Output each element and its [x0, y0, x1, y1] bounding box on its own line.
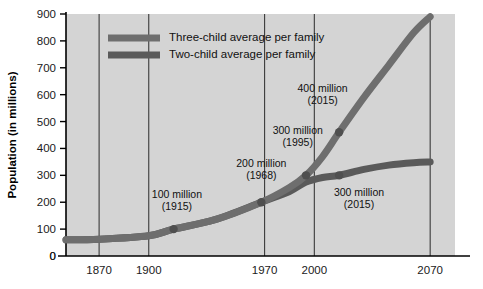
y-tick-label-600: 600 [37, 89, 56, 101]
y-tick-label-400: 400 [37, 142, 56, 154]
y-tick-label-200: 200 [37, 196, 56, 208]
legend-swatch-three-child [108, 35, 160, 42]
legend-label-three-child: Three-child average per family [169, 31, 325, 43]
annotation-value-3: 400 million [297, 82, 347, 94]
origin-label: 0 [50, 250, 56, 262]
chart-canvas: 0100200300400500600700800900187019001970… [0, 0, 483, 289]
annotation-year-0: (1915) [162, 200, 192, 212]
y-tick-label-800: 800 [37, 35, 56, 47]
x-tick-label-1900: 1900 [136, 264, 162, 276]
x-tick-label-1870: 1870 [86, 264, 112, 276]
annotation-value-4: 300 million [334, 186, 384, 198]
population-projection-chart: 0100200300400500600700800900187019001970… [0, 0, 483, 289]
annotation-year-4: (2015) [344, 198, 374, 210]
legend-swatch-two-child [108, 52, 160, 59]
y-tick-label-300: 300 [37, 169, 56, 181]
x-tick-label-1970: 1970 [252, 264, 278, 276]
data-point-marker-2 [302, 171, 310, 179]
y-axis-title: Population (in millions) [6, 71, 18, 198]
x-tick-label-2070: 2070 [417, 264, 443, 276]
y-tick-label-900: 900 [37, 8, 56, 20]
annotation-year-2: (1995) [283, 136, 313, 148]
data-point-marker-0 [169, 225, 177, 233]
y-tick-label-100: 100 [37, 223, 56, 235]
y-tick-label-500: 500 [37, 116, 56, 128]
x-tick-label-2000: 2000 [302, 264, 328, 276]
legend-label-two-child: Two-child average per family [169, 48, 316, 60]
annotation-value-0: 100 million [152, 188, 202, 200]
annotation-year-1: (1968) [246, 169, 276, 181]
data-point-marker-4 [335, 171, 343, 179]
annotation-value-1: 200 million [236, 157, 286, 169]
y-tick-label-700: 700 [37, 62, 56, 74]
annotation-value-2: 300 million [273, 124, 323, 136]
annotation-year-3: (2015) [307, 94, 337, 106]
data-point-marker-3 [335, 128, 343, 136]
data-point-marker-1 [257, 198, 265, 206]
